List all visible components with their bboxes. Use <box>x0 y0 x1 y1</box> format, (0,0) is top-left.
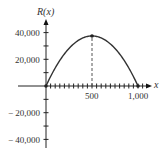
x-axis-arrow-icon <box>146 84 152 89</box>
y-axis-arrow-icon <box>44 19 49 25</box>
y-tick-20000: 20,000 <box>15 56 40 65</box>
y-tick-40000: 40,000 <box>15 29 40 38</box>
x-tick-1000: 1,000 <box>128 92 148 101</box>
y-tick-neg-20000: − 20,000 <box>8 109 40 118</box>
y-axis-label: R(x) <box>37 7 54 17</box>
x-axis-label: x <box>154 80 158 90</box>
x-tick-500: 500 <box>85 92 99 101</box>
y-tick-neg-40000: − 40,000 <box>8 136 40 145</box>
revenue-parabola-chart <box>0 0 163 154</box>
